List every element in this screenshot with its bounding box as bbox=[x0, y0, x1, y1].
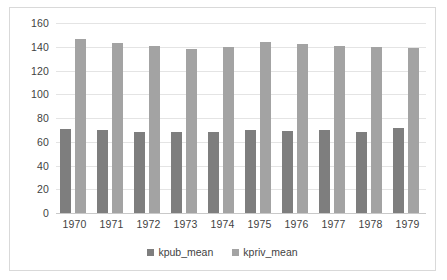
bar-group bbox=[389, 23, 426, 213]
bar-kpriv_mean-1973[interactable] bbox=[186, 49, 197, 213]
x-axis-tick-label-1975: 1975 bbox=[241, 218, 278, 230]
bar-kpub_mean-1979[interactable] bbox=[393, 128, 404, 214]
bar-kpub_mean-1978[interactable] bbox=[356, 132, 367, 213]
y-axis-tick-label: 20 bbox=[37, 183, 49, 195]
y-axis-tick-label: 120 bbox=[31, 65, 49, 77]
bar-kpub_mean-1977[interactable] bbox=[319, 130, 330, 213]
x-axis-tick-label-1979: 1979 bbox=[389, 218, 426, 230]
bar-kpriv_mean-1977[interactable] bbox=[334, 46, 345, 213]
bar-kpub_mean-1976[interactable] bbox=[282, 131, 293, 213]
bar-kpub_mean-1970[interactable] bbox=[60, 129, 71, 213]
x-axis-tick-labels: 1970197119721973197419751976197719781979 bbox=[56, 218, 426, 238]
bar-kpub_mean-1971[interactable] bbox=[97, 130, 108, 213]
chart-frame: 020406080100120140160 197019711972197319… bbox=[9, 7, 436, 271]
bar-kpub_mean-1972[interactable] bbox=[134, 132, 145, 213]
x-axis-tick-label-1976: 1976 bbox=[278, 218, 315, 230]
square-marker-icon bbox=[232, 249, 239, 256]
bar-kpriv_mean-1976[interactable] bbox=[297, 44, 308, 213]
bar-kpriv_mean-1972[interactable] bbox=[149, 46, 160, 213]
y-axis-tick-label: 60 bbox=[37, 136, 49, 148]
bar-kpub_mean-1975[interactable] bbox=[245, 130, 256, 213]
gridline bbox=[56, 213, 426, 214]
bar-kpriv_mean-1970[interactable] bbox=[75, 39, 86, 213]
legend-entry-kpub_mean[interactable]: kpub_mean bbox=[147, 246, 213, 258]
x-axis-tick-label-1978: 1978 bbox=[352, 218, 389, 230]
x-axis-tick-label-1970: 1970 bbox=[56, 218, 93, 230]
x-axis-tick-label-1974: 1974 bbox=[204, 218, 241, 230]
bar-group bbox=[352, 23, 389, 213]
bar-group bbox=[167, 23, 204, 213]
y-axis-tick-label: 80 bbox=[37, 112, 49, 124]
square-marker-icon bbox=[147, 249, 154, 256]
bar-series-layer bbox=[56, 23, 426, 213]
legend-label: kpriv_mean bbox=[243, 246, 297, 258]
bar-kpriv_mean-1975[interactable] bbox=[260, 42, 271, 213]
bar-kpriv_mean-1978[interactable] bbox=[371, 47, 382, 213]
bar-group bbox=[241, 23, 278, 213]
x-axis-tick-label-1972: 1972 bbox=[130, 218, 167, 230]
y-axis-tick-label: 140 bbox=[31, 41, 49, 53]
plot-area: 020406080100120140160 bbox=[56, 23, 426, 213]
bar-group bbox=[204, 23, 241, 213]
bar-group bbox=[93, 23, 130, 213]
bar-group bbox=[130, 23, 167, 213]
x-axis-tick-label-1977: 1977 bbox=[315, 218, 352, 230]
bar-group bbox=[315, 23, 352, 213]
x-axis-tick-label-1973: 1973 bbox=[167, 218, 204, 230]
bar-kpriv_mean-1974[interactable] bbox=[223, 47, 234, 213]
bar-kpriv_mean-1979[interactable] bbox=[408, 48, 419, 213]
y-axis-tick-label: 100 bbox=[31, 88, 49, 100]
y-axis-tick-label: 160 bbox=[31, 17, 49, 29]
legend-label: kpub_mean bbox=[158, 246, 213, 258]
y-axis-tick-label: 0 bbox=[43, 207, 49, 219]
y-axis-tick-label: 40 bbox=[37, 160, 49, 172]
x-axis-tick-label-1971: 1971 bbox=[93, 218, 130, 230]
bar-kpub_mean-1973[interactable] bbox=[171, 132, 182, 213]
chart-legend: kpub_meankpriv_mean bbox=[10, 246, 435, 258]
bar-group bbox=[278, 23, 315, 213]
bar-kpriv_mean-1971[interactable] bbox=[112, 43, 123, 213]
bar-group bbox=[56, 23, 93, 213]
legend-entry-kpriv_mean[interactable]: kpriv_mean bbox=[232, 246, 297, 258]
bar-kpub_mean-1974[interactable] bbox=[208, 132, 219, 213]
